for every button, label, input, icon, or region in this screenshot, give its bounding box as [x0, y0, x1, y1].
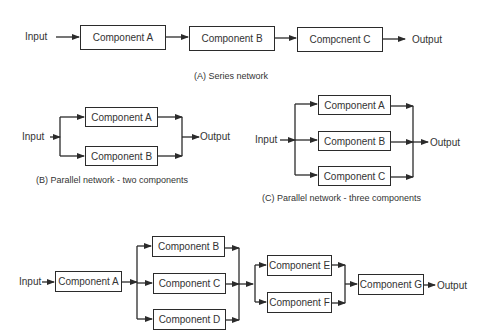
mixed-component-f: Component F	[267, 292, 332, 313]
parallel-two-component-a: Component A	[85, 107, 158, 127]
series-component-a: Component A	[80, 25, 166, 50]
parallel-three-component-a: Component A	[318, 95, 391, 115]
mixed-component-e: Component E	[267, 255, 332, 276]
parallel-three-component-c: Component C	[318, 166, 391, 186]
mixed-component-b: Component B	[152, 236, 225, 257]
mixed-component-c: Component C	[153, 273, 226, 294]
series-input-label: Input	[25, 31, 47, 42]
parallel-three-caption: (C) Parallel network - three components	[262, 193, 421, 203]
mixed-component-a: Component A	[55, 271, 122, 292]
parallel-three-component-b: Component B	[318, 131, 391, 151]
series-component-c: Compcnent C	[297, 27, 383, 52]
mixed-component-d: Component D	[153, 309, 226, 330]
series-caption: (A) Series network	[194, 71, 268, 81]
series-component-b: Component B	[189, 26, 275, 51]
parallel-three-input-label: Input	[255, 134, 277, 145]
mixed-component-g: Component G	[358, 274, 424, 295]
mixed-output-label: Output	[437, 280, 467, 291]
mixed-input-label: Input	[19, 276, 41, 287]
parallel-two-component-b: Component B	[85, 146, 158, 166]
parallel-two-caption: (B) Parallel network - two components	[36, 175, 188, 185]
series-output-label: Output	[412, 34, 442, 45]
parallel-two-input-label: Input	[22, 131, 44, 142]
parallel-three-output-label: Output	[430, 137, 460, 148]
parallel-two-output-label: Output	[200, 131, 230, 142]
